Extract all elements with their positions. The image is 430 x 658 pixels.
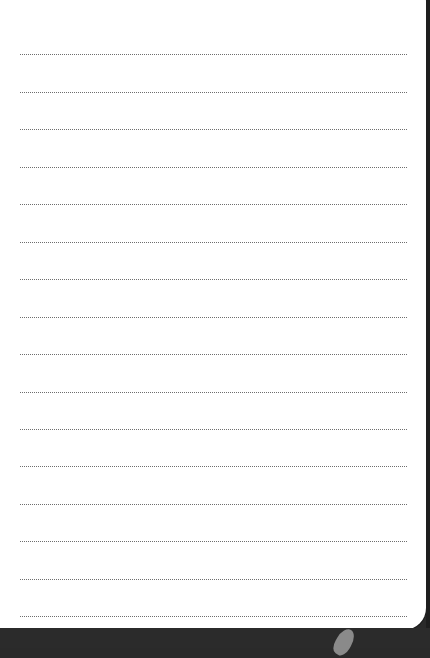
ruled-line (20, 317, 407, 318)
ruled-line (20, 429, 407, 430)
ruled-line (20, 242, 407, 243)
ruled-line (20, 466, 407, 467)
ruled-line (20, 204, 407, 205)
ruled-line (20, 504, 407, 505)
ruled-line (20, 54, 407, 55)
notebook-page (0, 0, 426, 630)
table-surface (0, 628, 430, 648)
ruled-line (20, 92, 407, 93)
ruled-line (20, 129, 407, 130)
ruled-line (20, 279, 407, 280)
ruled-line (20, 392, 407, 393)
ruled-line (20, 167, 407, 168)
page-edge-shadow (426, 0, 430, 648)
ruled-line (20, 579, 407, 580)
ruled-line (20, 354, 407, 355)
herb-sprig-decoration (410, 595, 428, 635)
ruled-line (20, 616, 407, 617)
ruled-line (20, 541, 407, 542)
